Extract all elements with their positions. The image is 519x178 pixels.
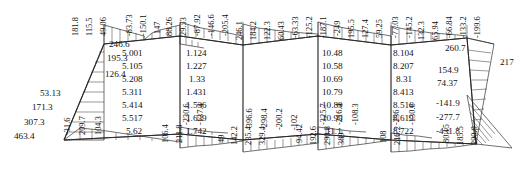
mid-label-8: -200.2 <box>276 108 284 130</box>
top-label-27: -66.84 <box>446 16 454 38</box>
left-side-label-2: 171.3 <box>32 103 53 112</box>
col2-value-5: 1.536 <box>186 101 207 110</box>
mid-label-13: -236 <box>393 110 401 125</box>
bottom-label-3: 49 <box>218 135 226 143</box>
bottom-label-4: 142.2 <box>231 126 239 145</box>
bottom-label-2: 211.8 <box>176 124 184 143</box>
bottom-label-12: 216.2 <box>394 126 402 145</box>
col4-value-2: 8.207 <box>393 62 414 71</box>
bottom-label-6: 329.4 <box>259 126 267 145</box>
right-col-value-7: 217 <box>500 58 514 67</box>
top-label-12: 246.1 <box>236 21 244 40</box>
col2-value-4: 1.431 <box>186 88 207 97</box>
top-label-10: -146.6 <box>208 14 216 36</box>
col4-value-4: 8.413 <box>393 88 414 97</box>
bottom-label-7: 94.42 <box>296 124 304 143</box>
col2-value-6: 1.639 <box>186 114 207 123</box>
col1-value-4: 5.311 <box>122 88 142 97</box>
top-label-5: -150.1 <box>140 14 148 36</box>
col2-value-1: 1.124 <box>186 49 207 58</box>
right-col-value-3: 74.37 <box>437 79 458 88</box>
left-side-label-1: 53.13 <box>40 89 61 98</box>
col3-value-2: 10.58 <box>322 62 343 71</box>
top-label-6: 147 <box>154 21 162 34</box>
col3-value-3: 10.69 <box>322 75 343 84</box>
col4-value-3: 8.31 <box>396 75 412 84</box>
col1-value-7: 5.62 <box>126 127 142 136</box>
mid-label-11: -216.4 <box>336 103 344 125</box>
top-label-21: 127.4 <box>362 19 370 38</box>
mid-label-1: -31.6 <box>64 118 72 135</box>
bottom-label-9: 290.8 <box>324 126 332 145</box>
top-label-15: 60.43 <box>278 21 286 40</box>
bottom-label-15: 290.9 <box>471 126 479 145</box>
mid-label-3: 104.3 <box>95 116 103 135</box>
col1-value-2: 5.105 <box>122 62 143 71</box>
col2-value-7: 1.742 <box>186 127 207 136</box>
top-label-8: 29.53 <box>180 17 188 36</box>
bottom-label-13: 80.15 <box>443 124 451 143</box>
top-label-20: 195.5 <box>348 19 356 38</box>
top-label-25: 132.3 <box>418 21 426 40</box>
col1-value-3: 5.208 <box>122 75 143 84</box>
col2-value-2: 1.227 <box>186 62 207 71</box>
top-label-9: -87.92 <box>194 14 202 36</box>
top-label-23: -77.03 <box>392 16 400 38</box>
bottom-label-11: 108 <box>380 130 388 143</box>
top-label-24: -145.2 <box>406 16 414 38</box>
top-label-28: -133.2 <box>460 16 468 38</box>
col3-value-1: 10.48 <box>322 49 343 58</box>
mid-label-2: 209.7 <box>79 116 87 135</box>
top-label-18: -187.1 <box>320 16 328 38</box>
left-side-label-4: 463.4 <box>14 132 35 141</box>
right-col-value-2: 154.9 <box>438 66 459 75</box>
top-label-11: -205.4 <box>222 14 230 36</box>
mid-label-10: -325.7 <box>320 103 328 125</box>
mid-label-12: -108.3 <box>352 103 360 125</box>
col2-value-3: 1.33 <box>189 75 205 84</box>
bending-moment-diagram: 181.8 115.5 49.06 -83.73 -150.1 147 88.2… <box>0 0 519 178</box>
top-label-1: 181.8 <box>72 17 80 36</box>
top-label-7: 88.26 <box>166 17 174 36</box>
top-label-4: -83.73 <box>126 14 134 36</box>
bottom-label-1: 106.4 <box>162 124 170 143</box>
col3-value-4: 10.79 <box>322 88 343 97</box>
bottom-label-5: 235.4 <box>245 126 253 145</box>
right-col-value-1: 260.7 <box>445 44 466 53</box>
col4-value-1: 8.104 <box>393 49 414 58</box>
col1-value-1: 5.001 <box>122 49 143 58</box>
top-label-26: 65.94 <box>432 21 440 40</box>
top-label-2: 115.5 <box>86 17 94 36</box>
top-label-29: -199.6 <box>474 16 482 38</box>
bottom-label-8: 192.6 <box>310 126 318 145</box>
col1-value-5: 5.414 <box>122 101 143 110</box>
top-label-3: 49.06 <box>100 17 108 36</box>
right-col-value-4: -141.9 <box>436 99 460 108</box>
bottom-label-10: 389 <box>338 132 346 145</box>
bottom-hatch-bay-3 <box>243 134 318 152</box>
mid-label-14: -130.6 <box>409 103 417 125</box>
right-col-value-5: -277.7 <box>436 113 460 122</box>
top-label-13: 184.2 <box>250 21 258 40</box>
top-label-22: 59.25 <box>376 19 384 38</box>
bottom-label-14: 185.5 <box>457 126 465 145</box>
top-label-16: -63.33 <box>292 16 300 38</box>
top-label-14: 122.3 <box>264 21 272 40</box>
col1-value-6: 5.517 <box>122 114 143 123</box>
top-label-19: -249 <box>334 21 342 36</box>
left-side-label-3: 307.3 <box>24 118 45 127</box>
top-label-17: -125.2 <box>306 16 314 38</box>
